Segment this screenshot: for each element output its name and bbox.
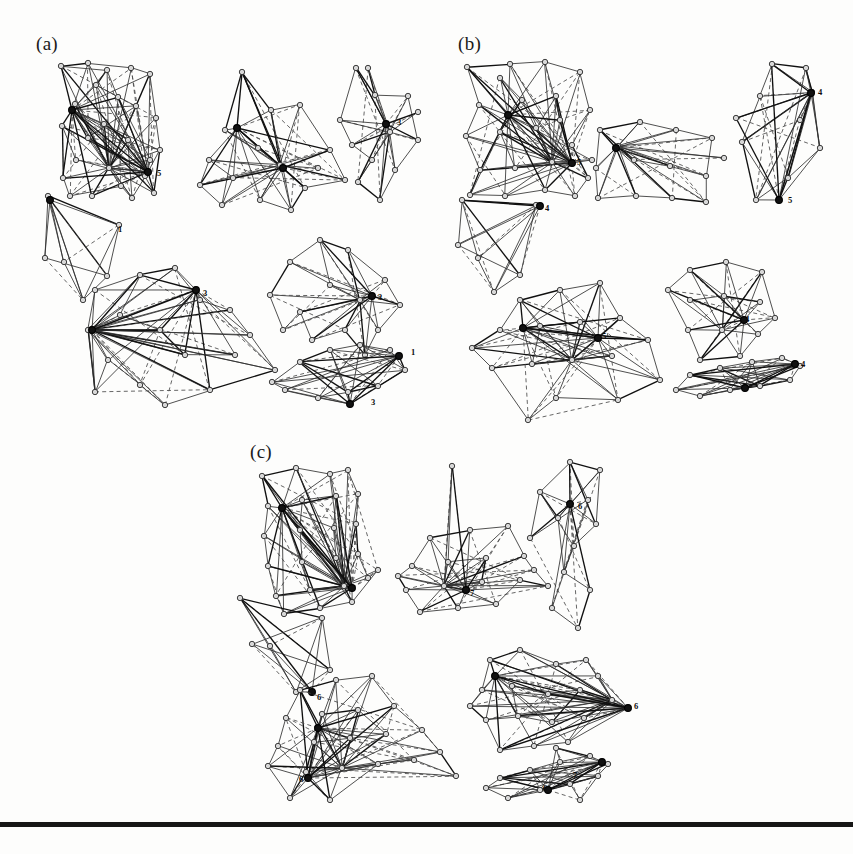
graph-node — [557, 287, 562, 292]
graph-node — [595, 195, 600, 200]
graph-node — [477, 167, 482, 172]
graph-node — [467, 703, 472, 708]
graph-node — [749, 359, 754, 364]
graph-node — [567, 781, 572, 786]
hub-number-label: 3 — [397, 117, 401, 127]
graph-node — [261, 533, 266, 538]
graph-node — [497, 747, 502, 752]
graph-node — [265, 503, 270, 508]
graph-hub-node — [383, 121, 390, 128]
hub-number-label: 6 — [317, 692, 321, 702]
graph-node — [273, 593, 278, 598]
graph-node — [445, 559, 450, 564]
graph-node — [597, 127, 602, 132]
graph-node — [505, 523, 510, 528]
graph-node — [411, 757, 416, 762]
graph-node — [587, 587, 592, 592]
graph-node — [585, 175, 590, 180]
graph-node — [317, 605, 322, 610]
graph-node — [92, 287, 97, 292]
graph-node — [197, 182, 202, 187]
graph-node — [353, 65, 358, 70]
graph-node — [299, 497, 304, 502]
graph-node — [687, 297, 692, 302]
graph-node — [409, 563, 414, 568]
graph-hub-node — [47, 197, 54, 204]
graph-node — [545, 691, 550, 696]
graph-node — [395, 573, 400, 578]
graph-node — [561, 569, 566, 574]
graph-node — [342, 327, 347, 332]
graph-node — [417, 609, 422, 614]
graph-node — [597, 467, 602, 472]
figure-background — [0, 0, 853, 854]
graph-node — [345, 389, 350, 394]
graph-node — [483, 555, 488, 560]
graph-node — [331, 525, 336, 530]
graph-hub-node — [520, 325, 527, 332]
hub-number-label: 6 — [634, 701, 638, 711]
network-figure-canvas: (a)(b)(c) 531331354545446766676 — [0, 0, 853, 854]
graph-node — [609, 697, 614, 702]
graph-node — [787, 377, 792, 382]
graph-node — [147, 71, 152, 76]
graph-node — [487, 657, 492, 662]
graph-node — [239, 69, 244, 74]
graph-node — [595, 773, 600, 778]
bottom-horizontal-rule — [0, 822, 853, 827]
graph-node — [117, 312, 122, 317]
graph-node — [255, 145, 260, 150]
graph-node — [517, 297, 522, 302]
graph-node — [333, 493, 338, 498]
graph-node — [542, 59, 547, 64]
graph-node — [549, 159, 554, 164]
graph-node — [133, 103, 138, 108]
graph-node — [297, 687, 302, 692]
graph-node — [521, 553, 526, 558]
graph-node — [80, 297, 85, 302]
graph-node — [319, 711, 324, 716]
graph-node — [345, 247, 350, 252]
graph-node — [571, 543, 576, 548]
graph-node — [357, 297, 362, 302]
graph-node — [355, 707, 360, 712]
graph-node — [673, 387, 678, 392]
graph-hub-node — [463, 587, 470, 594]
graph-node — [60, 175, 65, 180]
hub-number-label: 5 — [602, 331, 606, 341]
graph-node — [309, 337, 314, 342]
graph-node — [307, 587, 312, 592]
graph-node — [575, 625, 580, 630]
graph-node — [491, 289, 496, 294]
graph-node — [567, 459, 572, 464]
hub-number-label: 5 — [788, 195, 792, 205]
graph-node — [129, 195, 134, 200]
graph-node — [58, 63, 63, 68]
graph-node — [569, 357, 574, 362]
graph-node — [419, 727, 424, 732]
graph-node — [257, 197, 262, 202]
graph-node — [281, 611, 286, 616]
graph-hub-node — [280, 165, 287, 172]
graph-node — [697, 357, 702, 362]
graph-node — [437, 749, 442, 754]
graph-node — [553, 395, 558, 400]
graph-node — [585, 497, 590, 502]
graph-node — [597, 280, 602, 285]
graph-node — [553, 661, 558, 666]
graph-node — [502, 193, 507, 198]
graph-node — [402, 367, 407, 372]
graph-node — [283, 715, 288, 720]
graph-node — [327, 797, 332, 802]
graph-node — [151, 190, 156, 195]
graph-node — [355, 491, 360, 496]
graph-node — [405, 93, 410, 98]
graph-node — [105, 357, 110, 362]
graph-node — [455, 242, 460, 247]
graph-hub-node — [599, 759, 606, 766]
graph-node — [727, 387, 732, 392]
graph-node — [515, 713, 520, 718]
graph-hub-node — [613, 145, 620, 152]
graph-node — [287, 795, 292, 800]
graph-node — [581, 715, 586, 720]
